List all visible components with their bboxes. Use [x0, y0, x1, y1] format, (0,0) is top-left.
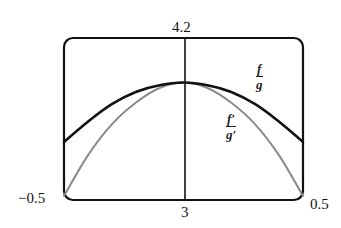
label-numerator: f′ [226, 112, 236, 127]
x-max-label: 0.5 [310, 197, 329, 212]
y-min-label: 3 [181, 205, 189, 220]
x-min-label: −0.5 [18, 191, 45, 206]
curve-f-over-g [64, 83, 303, 142]
legend-label-f-prime-over-g-prime: f′ g′ [226, 112, 236, 141]
label-denominator: g′ [226, 127, 236, 141]
label-numerator: f [256, 62, 263, 77]
legend-label-f-over-g: f g [256, 62, 263, 91]
viewing-window-frame [64, 38, 303, 200]
label-denominator: g [256, 77, 263, 91]
curve-f-prime-over-g-prime [64, 83, 303, 197]
graph-window [0, 0, 341, 228]
y-max-label: 4.2 [172, 20, 191, 35]
